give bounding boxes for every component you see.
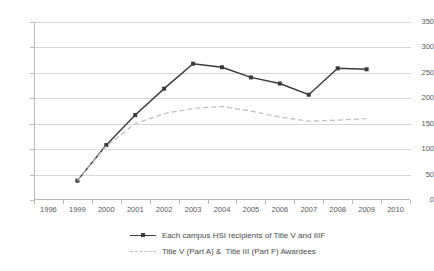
legend-label: Each campus HSI recipients of Title V an… xyxy=(158,231,325,241)
line-chart: 350300250200150100500 199619992000200120… xyxy=(0,0,434,271)
y-axis-tick-label: 250 xyxy=(408,69,434,77)
y-axis-tick-label: 50 xyxy=(408,171,434,179)
y-axis-tick-label: 200 xyxy=(408,94,434,102)
data-point-marker xyxy=(162,87,166,91)
data-point-marker xyxy=(307,93,311,97)
x-axis-tick-mark xyxy=(34,200,35,204)
x-axis-tick-mark xyxy=(121,200,122,204)
legend-item-each-campus-hsi[interactable]: Each campus HSI recipients of Title V an… xyxy=(128,228,428,244)
series-line-1 xyxy=(77,64,366,181)
x-axis-tick-mark xyxy=(294,200,295,204)
y-axis-tick-label: 100 xyxy=(408,145,434,153)
x-axis-tick-mark xyxy=(381,200,382,204)
data-point-marker xyxy=(365,67,369,71)
x-axis-tick-mark xyxy=(410,200,411,204)
x-axis-tick-mark xyxy=(150,200,151,204)
x-axis-tick-mark xyxy=(236,200,237,204)
legend-solid-line-icon xyxy=(128,231,158,241)
y-axis-tick-label: 300 xyxy=(408,43,434,51)
data-point-marker xyxy=(249,75,253,79)
x-axis-tick-mark xyxy=(323,200,324,204)
x-axis-tick-mark xyxy=(208,200,209,204)
x-axis-tick-mark xyxy=(63,200,64,204)
x-axis-tick-mark xyxy=(352,200,353,204)
data-point-marker xyxy=(278,82,282,86)
series-layer xyxy=(34,22,410,200)
y-axis-tick-label: 0 xyxy=(408,196,434,204)
legend-item-title-v-part-a-awardees[interactable]: Title V (Part A) & Title III (Part F) Aw… xyxy=(128,244,428,260)
data-point-marker xyxy=(220,65,224,69)
series-line-2 xyxy=(77,106,366,180)
data-point-marker xyxy=(133,113,137,117)
data-point-marker xyxy=(336,66,340,70)
legend-label: Title V (Part A) & Title III (Part F) Aw… xyxy=(158,247,316,257)
legend-dashed-line-icon xyxy=(128,247,158,257)
x-axis-tick-mark xyxy=(179,200,180,204)
data-point-marker xyxy=(191,62,195,66)
x-axis-tick-mark xyxy=(92,200,93,204)
legend: Each campus HSI recipients of Title V an… xyxy=(128,228,428,260)
y-axis-tick-label: 150 xyxy=(408,120,434,128)
x-axis-tick-mark xyxy=(265,200,266,204)
y-axis-tick-label: 350 xyxy=(408,18,434,26)
x-axis-tick-label: 2010 xyxy=(379,205,413,214)
